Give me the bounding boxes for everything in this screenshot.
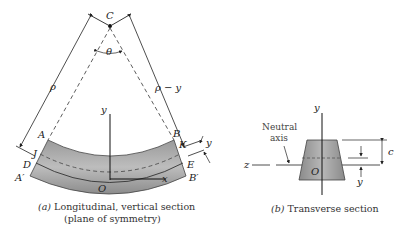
label-rho-minus-y: ρ − y bbox=[154, 82, 182, 93]
label-O-b: O bbox=[311, 166, 319, 177]
label-axis: axis bbox=[270, 133, 288, 143]
label-z: z bbox=[243, 159, 250, 170]
label-c: C bbox=[106, 10, 114, 21]
caption-a-line2: (plane of symmetry) bbox=[64, 213, 161, 224]
bending-diagram: C θ ρ ρ − y y A B J K D E A′ B′ O x y (a… bbox=[0, 0, 401, 234]
caption-b: (b) Transverse section bbox=[271, 203, 379, 214]
curved-beam-band bbox=[30, 140, 186, 194]
caption-a: (a) Longitudinal, vertical section bbox=[38, 201, 195, 212]
label-x-axis: x bbox=[162, 173, 168, 184]
label-K: K bbox=[178, 139, 187, 150]
label-O: O bbox=[98, 183, 106, 194]
label-theta: θ bbox=[106, 46, 112, 57]
label-y-offset: y bbox=[205, 137, 212, 148]
label-A: A bbox=[37, 129, 45, 140]
label-y-axis-b: y bbox=[313, 102, 320, 113]
label-B: B bbox=[172, 128, 180, 139]
label-E: E bbox=[186, 159, 195, 170]
label-A-prime: A′ bbox=[14, 172, 25, 183]
label-y-dim: y bbox=[356, 176, 363, 187]
label-y-axis: y bbox=[100, 104, 107, 115]
longitudinal-section: C θ ρ ρ − y y A B J K D E A′ B′ O x y (a… bbox=[14, 10, 212, 224]
label-J: J bbox=[31, 148, 38, 159]
label-rho: ρ bbox=[49, 81, 56, 92]
label-D: D bbox=[22, 159, 31, 170]
label-neutral: Neutral bbox=[262, 122, 297, 132]
label-c-dim: c bbox=[388, 146, 394, 157]
label-B-prime: B′ bbox=[188, 172, 199, 183]
center-point bbox=[108, 24, 112, 28]
transverse-section: y Neutral axis z O c y (b) Transverse se… bbox=[243, 102, 394, 214]
